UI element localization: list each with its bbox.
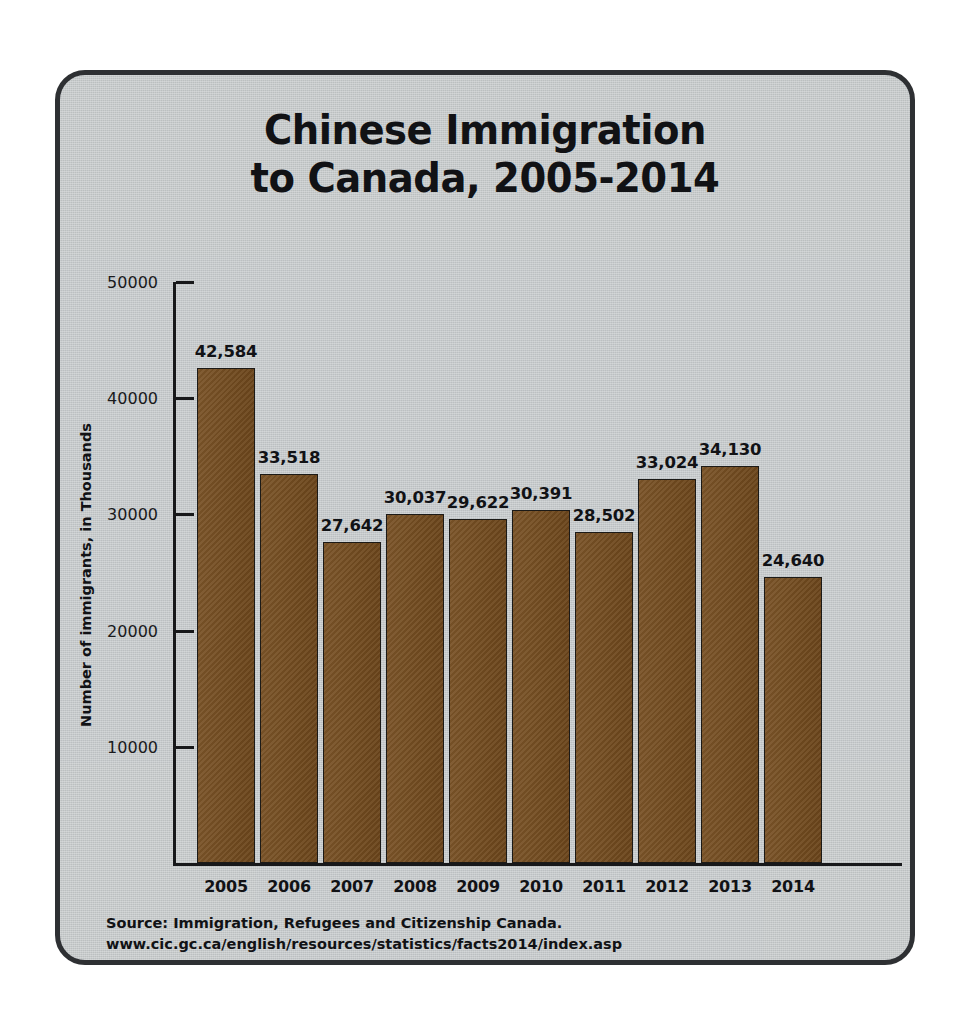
bar-value-label: 33,518 — [229, 448, 349, 467]
source-line-1: Source: Immigration, Refugees and Citize… — [106, 913, 622, 934]
source-line-2: www.cic.gc.ca/english/resources/statisti… — [106, 934, 622, 955]
y-axis-tick-mark — [176, 397, 194, 400]
x-axis-line — [173, 863, 902, 866]
bar-value-label: 42,584 — [166, 342, 286, 361]
source-note: Source: Immigration, Refugees and Citize… — [106, 913, 622, 955]
plot-area: 1000020000300004000050000 42,58433,51827… — [60, 75, 910, 960]
y-axis-tick-mark — [176, 513, 194, 516]
bar-value-label: 24,640 — [733, 551, 853, 570]
bar[interactable] — [386, 514, 444, 863]
y-axis-tick-label: 50000 — [74, 273, 158, 292]
y-axis-tick-mark — [176, 281, 194, 284]
chart-card: Chinese Immigration to Canada, 2005-2014… — [55, 70, 915, 965]
bar[interactable] — [449, 519, 507, 863]
x-axis-tick-label: 2014 — [743, 877, 843, 896]
bar-value-label: 30,391 — [481, 484, 601, 503]
bar[interactable] — [512, 510, 570, 863]
bar[interactable] — [701, 466, 759, 863]
bar[interactable] — [764, 577, 822, 863]
y-axis-line — [173, 282, 176, 866]
bar[interactable] — [197, 368, 255, 863]
bar[interactable] — [323, 542, 381, 863]
bar[interactable] — [575, 532, 633, 863]
y-axis-tick-mark — [176, 746, 194, 749]
y-axis-title: Number of immigrants, in Thousands — [78, 405, 94, 745]
bar-value-label: 34,130 — [670, 440, 790, 459]
y-axis-tick-mark — [176, 630, 194, 633]
bar[interactable] — [638, 479, 696, 863]
